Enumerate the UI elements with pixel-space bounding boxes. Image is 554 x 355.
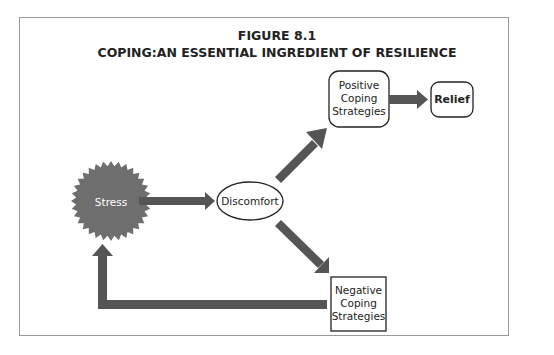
positive-line-2: Coping <box>329 92 389 105</box>
diagram-canvas <box>0 0 554 355</box>
negative-line-3: Strategies <box>331 310 386 323</box>
negative-line-1: Negative <box>331 284 386 297</box>
arrow-positive-to-relief <box>389 90 428 109</box>
negative-line-2: Coping <box>331 297 386 310</box>
arrow-discomfort-to-negative <box>275 220 329 273</box>
relief-label: Relief <box>431 93 473 106</box>
positive-coping-label: Positive Coping Strategies <box>329 79 389 118</box>
arrow-discomfort-to-positive <box>275 128 327 183</box>
arrow-negative-to-stress <box>92 244 327 309</box>
positive-line-3: Strategies <box>329 105 389 118</box>
arrow-stress-to-discomfort <box>139 192 215 210</box>
discomfort-label: Discomfort <box>217 195 283 208</box>
stress-label: Stress <box>73 196 149 209</box>
negative-coping-label: Negative Coping Strategies <box>331 284 386 323</box>
positive-line-1: Positive <box>329 79 389 92</box>
